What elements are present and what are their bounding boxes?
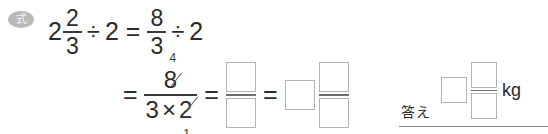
answer-fraction-final xyxy=(471,62,497,120)
lhs-fraction: 2 3 xyxy=(63,6,82,58)
rhs-improper-fraction: 8 3 xyxy=(147,6,166,58)
multiplication-operator: × xyxy=(162,96,179,123)
answer-unit-label: kg xyxy=(502,80,521,101)
division-operator-1: ÷ xyxy=(87,18,100,46)
rhs-fraction-numerator: 8 xyxy=(147,6,166,30)
equation-line-2: = 4 8 3×2 1 = = xyxy=(123,62,349,128)
equals-sign-1: = xyxy=(126,17,141,46)
answer-box-denominator-2[interactable] xyxy=(319,98,349,128)
equals-sign-4: = xyxy=(263,80,278,109)
answer-box-numerator-2[interactable] xyxy=(319,62,349,92)
answer-box-denominator-1[interactable] xyxy=(226,98,256,128)
answer-box-numerator-final[interactable] xyxy=(471,62,497,88)
answer-mixed-number-1 xyxy=(285,62,349,128)
reduced-numerator-annotation: 4 xyxy=(169,52,176,65)
lhs-whole-number: 2 xyxy=(48,17,62,46)
equation-line-1: 2 2 3 ÷ 2 = 8 3 ÷ 2 xyxy=(48,6,203,58)
answer-label: 答え xyxy=(401,101,430,121)
answer-box-denominator-final[interactable] xyxy=(471,93,497,119)
division-operator-2: ÷ xyxy=(171,18,184,46)
answer-box-numerator-1[interactable] xyxy=(226,62,256,92)
answer-section: 答え kg xyxy=(399,54,548,134)
lhs-fraction-denominator: 3 xyxy=(63,34,82,58)
answer-fraction-2-bar xyxy=(319,94,349,96)
cancellation-fraction: 4 8 3×2 1 xyxy=(144,67,198,123)
answer-box-whole-final[interactable] xyxy=(441,77,467,103)
divisor-1: 2 xyxy=(105,17,119,46)
denominator-left-factor: 3 xyxy=(146,96,162,123)
answer-fraction-1 xyxy=(226,62,256,128)
rhs-fraction-denominator: 3 xyxy=(147,34,166,58)
answer-fraction-2 xyxy=(319,62,349,128)
lhs-fraction-numerator: 2 xyxy=(63,6,82,30)
divisor-2: 2 xyxy=(189,17,203,46)
answer-underline xyxy=(399,126,548,127)
mixed-number-lhs: 2 2 3 xyxy=(48,6,82,58)
answer-box-whole-1[interactable] xyxy=(285,80,315,110)
expression-badge: 式 xyxy=(8,11,34,28)
equals-sign-3: = xyxy=(204,80,219,109)
reduced-denominator-annotation: 1 xyxy=(183,127,193,134)
answer-fraction-final-bar xyxy=(471,90,497,92)
cancellation-numerator-group: 4 8 xyxy=(150,67,191,93)
equals-sign-2: = xyxy=(123,80,138,109)
answer-value-group: kg xyxy=(441,62,521,120)
cancellation-denominator-group: 3×2 1 xyxy=(144,97,198,123)
answer-fraction-1-bar xyxy=(226,94,256,96)
